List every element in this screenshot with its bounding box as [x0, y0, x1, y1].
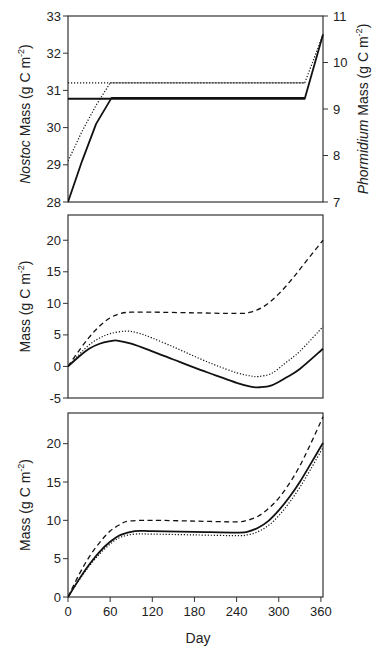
y-tick-label: 10: [47, 296, 61, 311]
y-tick-label: 10: [47, 513, 61, 528]
series-line-dotted: [68, 448, 323, 598]
y-tick-label: 29: [47, 157, 61, 172]
y-right-tick-label: 8: [333, 148, 340, 163]
y-tick-label: 5: [54, 551, 61, 566]
series-line-dotted: [68, 35, 323, 83]
y-right-tick-label: 10: [333, 55, 347, 70]
x-tick-label: 180: [184, 604, 206, 619]
plot-frame: [68, 215, 323, 398]
y-tick-label: 0: [54, 359, 61, 374]
series-line-solid: [68, 98, 305, 202]
y-tick-label: 32: [47, 46, 61, 61]
figure: 2829303132337891011Nostoc Mass (g C m-2)…: [0, 0, 392, 652]
panel-middle-mass: -505101520Mass (g C m-2): [16, 215, 323, 406]
y-right-axis-label: Phormidium Mass (g C m-2): [354, 24, 371, 195]
y-tick-label: -5: [49, 391, 61, 406]
plot-frame: [68, 413, 323, 597]
y-axis-label: Mass (g C m-2): [16, 260, 33, 352]
x-tick-label: 360: [310, 604, 332, 619]
y-axis-label: Nostoc Mass (g C m-2): [16, 44, 33, 184]
y-tick-label: 15: [47, 264, 61, 279]
series-line-dashed: [68, 240, 323, 366]
y-tick-label: 33: [47, 9, 61, 24]
y-tick-label: 31: [47, 83, 61, 98]
y-tick-label: 20: [47, 233, 61, 248]
series-line-dashed: [68, 417, 323, 597]
plot-frame: [68, 16, 323, 202]
x-tick-label: 300: [268, 604, 290, 619]
y-axis-label: Mass (g C m-2): [16, 459, 33, 551]
panel-bottom-mass: 05101520060120180240300360Mass (g C m-2): [16, 413, 332, 619]
y-tick-label: 20: [47, 436, 61, 451]
series-line-dotted: [68, 327, 323, 377]
series-line-solid: [68, 443, 323, 597]
y-tick-label: 28: [47, 195, 61, 210]
y-right-tick-label: 11: [333, 9, 347, 24]
y-tick-label: 30: [47, 120, 61, 135]
x-tick-label: 240: [226, 604, 248, 619]
series-line-dotted: [68, 83, 305, 161]
x-axis-label: Day: [186, 630, 211, 646]
x-tick-label: 0: [64, 604, 71, 619]
y-right-tick-label: 9: [333, 102, 340, 117]
y-right-tick-label: 7: [333, 195, 340, 210]
y-tick-label: 0: [54, 590, 61, 605]
panel-nostoc-phormidium: 2829303132337891011Nostoc Mass (g C m-2)…: [16, 9, 371, 210]
x-tick-label: 120: [141, 604, 163, 619]
y-tick-label: 15: [47, 475, 61, 490]
y-tick-label: 5: [54, 327, 61, 342]
x-tick-label: 60: [103, 604, 117, 619]
